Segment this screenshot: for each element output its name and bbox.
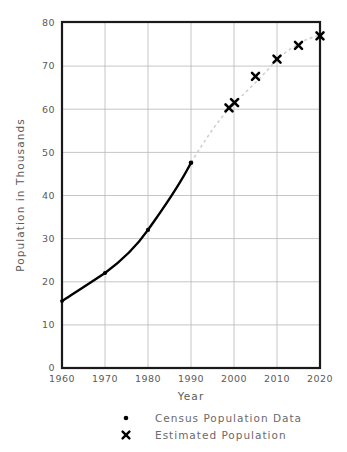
x-tick-1990: 1990 (178, 373, 204, 384)
x-tick-1960: 1960 (49, 373, 75, 384)
x-tick-2020: 2020 (307, 373, 333, 384)
x-tick-1980: 1980 (135, 373, 161, 384)
y-tick-50: 50 (42, 147, 55, 158)
y-axis-title: Population in Thousands (14, 118, 26, 272)
legend-dot-marker-icon (124, 416, 129, 421)
legend-label-estimated: Estimated Population (155, 429, 287, 441)
y-tick-70: 70 (42, 60, 55, 71)
population-chart: 0 10 20 30 40 50 60 70 80 1960 1970 1980… (0, 0, 347, 452)
x-tick-2000: 2000 (221, 373, 247, 384)
census-point-1980 (146, 228, 150, 232)
y-tick-60: 60 (42, 104, 55, 115)
legend-label-census: Census Population Data (155, 412, 302, 424)
chart-svg: 0 10 20 30 40 50 60 70 80 1960 1970 1980… (0, 0, 347, 452)
census-point-1990 (189, 161, 194, 166)
x-tick-1970: 1970 (92, 373, 118, 384)
y-tick-20: 20 (42, 276, 55, 287)
y-tick-10: 10 (42, 319, 55, 330)
y-tick-0: 0 (49, 362, 55, 373)
census-point-1970 (103, 271, 107, 275)
x-tick-2010: 2010 (264, 373, 290, 384)
y-tick-40: 40 (42, 190, 55, 201)
x-axis-title: Year (177, 390, 205, 402)
y-tick-80: 80 (42, 17, 55, 28)
y-tick-30: 30 (42, 233, 55, 244)
y-axis-tick-labels: 0 10 20 30 40 50 60 70 80 (42, 17, 55, 373)
census-point-1960 (60, 299, 64, 303)
